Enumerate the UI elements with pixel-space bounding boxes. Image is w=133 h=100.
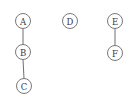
nodes-layer: ABCDEF [16, 14, 123, 94]
node-label: D [67, 17, 74, 27]
node-label: B [20, 48, 26, 58]
edges-layer [23, 29, 115, 79]
node-label: C [21, 82, 28, 92]
graph-diagram: ABCDEF [0, 0, 133, 100]
node-d: D [63, 14, 78, 29]
node-e: E [108, 14, 123, 29]
node-label: E [112, 17, 118, 27]
node-label: A [19, 17, 27, 27]
node-label: F [112, 49, 118, 59]
node-b: B [16, 45, 31, 60]
edge-b-c [23, 60, 24, 79]
node-f: F [108, 46, 123, 61]
node-c: C [17, 79, 32, 94]
node-a: A [16, 14, 31, 29]
